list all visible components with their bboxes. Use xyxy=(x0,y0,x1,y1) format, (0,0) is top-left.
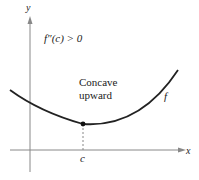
curve-label: f xyxy=(164,91,167,102)
y-axis-label: y xyxy=(26,3,30,13)
second-derivative-condition: f″(c) > 0 xyxy=(44,33,82,44)
annotation-line-2: upward xyxy=(79,89,117,102)
point-c-marker xyxy=(81,122,86,127)
y-axis-arrow-icon xyxy=(28,16,33,24)
annotation-line-1: Concave xyxy=(79,76,117,89)
point-c-label: c xyxy=(80,153,85,164)
concave-upward-annotation: Concave upward xyxy=(79,76,117,102)
concavity-diagram: y x f″(c) > 0 Concave upward f c xyxy=(0,0,199,180)
x-axis-arrow-icon xyxy=(178,148,186,153)
x-axis-label: x xyxy=(186,146,190,156)
